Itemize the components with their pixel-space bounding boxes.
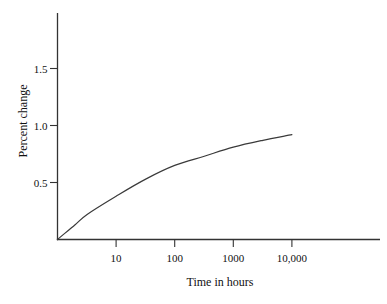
plot-canvas: [0, 0, 387, 304]
y-axis-title: Percent change: [17, 85, 29, 158]
x-tick-label-1: 100: [166, 253, 183, 264]
y-tick-label-0: 0.5: [34, 177, 48, 188]
x-axis-title: Time in hours: [187, 276, 254, 288]
y-tick-label-2: 1.5: [34, 63, 48, 74]
x-tick-label-2: 1000: [222, 253, 244, 264]
y-tick-label-1: 1.0: [34, 120, 48, 131]
x-tick-label-0: 10: [111, 253, 122, 264]
curve-line: [58, 135, 292, 240]
x-tick-label-3: 10,000: [277, 253, 307, 264]
chart-figure: Percent change Time in hours 0.5 1.0 1.5…: [0, 0, 387, 304]
